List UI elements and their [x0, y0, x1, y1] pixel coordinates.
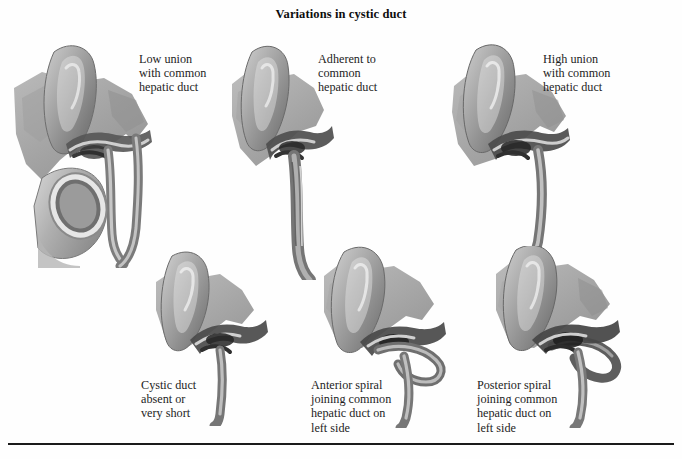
- figure-caption-anterior-spiral: Anterior spiral joining common hepatic d…: [311, 378, 391, 435]
- figure-caption-posterior-spiral: Posterior spiral joining common hepatic …: [477, 378, 557, 435]
- illustration-plate: Variations in cystic duct: [0, 0, 682, 459]
- common-bile-duct: [120, 138, 138, 266]
- bottom-divider: [8, 443, 674, 445]
- figure-caption-high-union: High union with common hepatic duct: [543, 52, 610, 95]
- page-title: Variations in cystic duct: [0, 7, 682, 22]
- figure-caption-low-union: Low union with common hepatic duct: [139, 52, 206, 95]
- figure-caption-adherent: Adherent to common hepatic duct: [318, 52, 377, 95]
- common-bile-duct-adherent: [292, 156, 310, 280]
- common-bile-duct: [214, 350, 222, 426]
- duodenum-shape: [34, 166, 115, 268]
- figure-caption-cystic-duct-absent: Cystic duct absent or very short: [141, 378, 196, 421]
- cystic-duct: [108, 150, 124, 264]
